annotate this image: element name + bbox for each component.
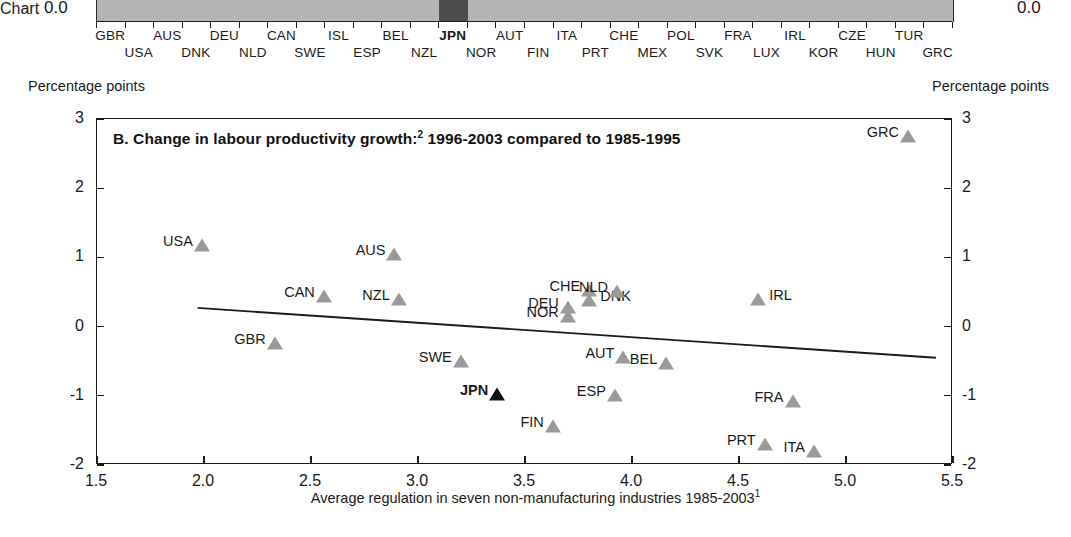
panel-a-bar-mex [639,0,670,22]
y-tick-label-right-1: 1 [962,247,971,265]
y-tick-left-2 [97,188,104,189]
figure-root: 0.0 0.0 GBRAUSDEUCANISLBELJPNAUTITACHEPO… [0,0,1071,537]
panel-a-bar-deu [211,0,242,22]
panel-a-country-label-bel: BEL [383,28,409,43]
x-tick-4.5 [738,456,739,463]
panel-a-bar-can [268,0,299,22]
panel-a-bar-hun [867,0,898,22]
data-point-label-nor: NOR [527,304,559,320]
panel-a-bar-lux [753,0,784,22]
x-tick-label-3.5: 3.5 [513,472,535,490]
panel-a-bar-usa [126,0,157,22]
panel-a-bar-che [611,0,642,22]
x-tick-3.0 [417,456,418,463]
data-point-can [316,289,332,302]
panel-a-bar-tur [896,0,927,22]
y-tick-label-left-0: 0 [52,317,84,335]
panel-a-bar-esp [354,0,385,22]
panel-a-country-label-che: CHE [609,28,638,43]
data-point-label-prt: PRT [727,432,756,448]
x-tick-label-2.0: 2.0 [192,472,214,490]
y-tick-label-left-1: 1 [52,247,84,265]
x-tick-label-2.5: 2.5 [299,472,321,490]
panel-a-country-label-gbr: GBR [95,28,125,43]
data-point-swe [453,354,469,367]
data-point-aus [386,248,402,261]
panel-a-country-label-jpn: JPN [439,28,466,43]
panel-a-country-label-deu: DEU [210,28,239,43]
y-tick-label-left-3: 3 [52,109,84,127]
x-tick-1.5 [96,456,97,463]
panel-a-country-label-tur: TUR [895,28,923,43]
data-point-label-nzl: NZL [362,287,389,303]
panel-a-bar-kor [810,0,841,22]
y-tick-right-0 [944,326,951,327]
panel-a-bar-fin [525,0,556,22]
y-tick-right--1 [944,395,951,396]
panel-a-bar-ita [554,0,585,22]
panel-a-bar-aut [496,0,527,22]
y-tick-label-right-3: 3 [962,109,971,127]
x-axis-title-text: Average regulation in seven non-manufact… [311,490,755,506]
data-point-label-can: CAN [284,284,315,300]
y-tick-label-left--1: -1 [52,386,84,404]
panel-a-country-label-irl: IRL [784,28,806,43]
x-tick-label-3.0: 3.0 [406,472,428,490]
panel-a-bar-irl [782,0,813,22]
data-point-gbr [267,336,283,349]
data-point-prt [757,437,773,450]
data-point-bel [658,357,674,370]
data-point-fra [785,394,801,407]
x-tick-5.5 [952,456,953,463]
y-tick-right-2 [944,188,951,189]
data-point-label-che: CHE [550,278,581,294]
data-point-label-nld: NLD [579,279,608,295]
panel-a-bar-fra [725,0,756,22]
data-point-label-swe: SWE [419,349,452,365]
y-tick-label-right-0: 0 [962,317,971,335]
data-point-ita [806,444,822,457]
panel-a-bar-chart: 0.0 0.0 GBRAUSDEUCANISLBELJPNAUTITACHEPO… [0,0,1071,56]
panel-a-bar-bel [382,0,413,22]
panel-a-country-label-cze: CZE [838,28,866,43]
x-tick-label-4.5: 4.5 [727,472,749,490]
panel-a-bar-cze [839,0,870,22]
panel-a-country-label-can: CAN [267,28,296,43]
panel-a-bar-swe [297,0,328,22]
x-tick-2.5 [310,456,311,463]
y-tick-left--2 [97,464,104,465]
x-tick-2.0 [203,456,204,463]
data-point-esp [607,389,623,402]
panel-a-country-label-fra: FRA [724,28,752,43]
panel-a-country-label-aut: AUT [496,28,524,43]
panel-a-axis-label-right: 0.0 [1017,0,1041,18]
x-tick-5.0 [845,456,846,463]
y-tick-label-right--2: -2 [962,455,976,473]
data-point-nzl [391,293,407,306]
y-axis-unit-right: Percentage points [932,78,1049,94]
y-tick-right-1 [944,257,951,258]
y-tick-label-right-2: 2 [962,178,971,196]
y-tick-left--1 [97,395,104,396]
panel-a-bar-nld [240,0,271,22]
panel-a-bar-pol [668,0,699,22]
panel-a-country-label-isl: ISL [328,28,349,43]
panel-a-bar-jpn [439,0,470,22]
data-point-irl [750,293,766,306]
panel-a-bar-gbr [97,0,128,22]
x-axis-footnote-marker: 1 [755,488,761,499]
x-tick-label-5.5: 5.5 [941,472,963,490]
panel-a-bar-nzl [411,0,442,22]
x-tick-label-5.0: 5.0 [834,472,856,490]
plot-area: B. Change in labour productivity growth:… [96,118,952,464]
panel-a-bar-grc [924,0,954,22]
panel-a-country-row-upper: GBRAUSDEUCANISLBELJPNAUTITACHEPOLFRAIRLC… [0,28,1071,44]
data-point-label-aus: AUS [356,242,386,258]
data-point-label-irl: IRL [769,287,792,303]
data-point-label-aut: AUT [585,345,614,361]
y-tick-label-left-2: 2 [52,178,84,196]
panel-a-bar-isl [325,0,356,22]
panel-a-bar-nor [468,0,499,22]
data-point-label-grc: GRC [867,124,899,140]
x-tick-label-4.0: 4.0 [620,472,642,490]
